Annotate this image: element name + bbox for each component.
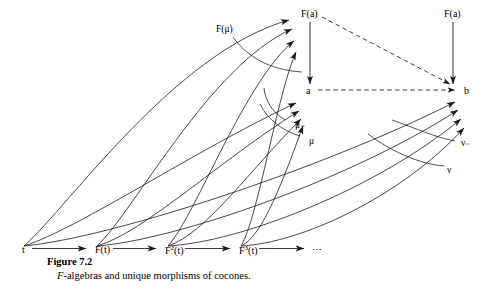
node-F3t-tail: (t) [248,245,257,256]
arrow-label-mu: μ [309,137,314,147]
figure-page: t F(t) F2(t) F3(t) ⋯ F(a) F(a) a b F(μ) … [0,0,499,290]
node-t: t [22,245,25,255]
node-Fa-right: F(a) [444,9,461,19]
node-F3t: F3(t) [239,245,258,256]
lower-cocone-curves-to-a [24,103,303,246]
arrow-label-mu-minus: μ₋ [295,121,305,131]
node-F2t-tail: (t) [174,245,183,256]
caption-title: Figure 7.2 [47,256,377,268]
label-connector-arcs [233,37,455,166]
caption-text: F-algebras and unique morphisms of cocon… [47,269,377,282]
node-Ft: F(t) [95,245,110,255]
node-ellipsis: ⋯ [312,245,322,255]
node-a: a [306,86,310,96]
node-Fa-left: F(a) [301,9,318,19]
arrow-label-F-mu: F(μ) [216,25,233,35]
arrow-label-nu-minus: ν₋ [461,139,470,149]
node-b: b [464,86,469,96]
figure-caption: Figure 7.2 F-algebras and unique morphis… [47,256,377,282]
dashed-arrow-Fa-to-b [322,17,450,84]
node-F2t: F2(t) [165,245,184,256]
arrow-label-nu: ν [447,166,451,176]
caption-text-rest: -algebras and unique morphisms of cocone… [63,270,250,281]
upper-cocone-curves-to-Fa [24,20,296,246]
